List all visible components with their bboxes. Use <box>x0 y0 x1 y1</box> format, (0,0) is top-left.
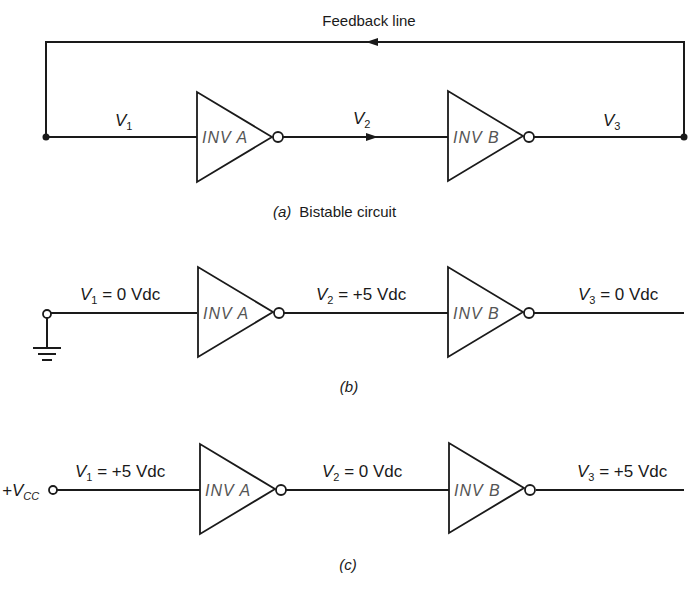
inverter-b-label: INV B <box>453 305 500 322</box>
feedback-arrow-icon <box>366 38 378 46</box>
vcc-source-label: +VCC <box>2 481 39 502</box>
inversion-bubble-icon <box>524 132 534 142</box>
caption-a: (a)Bistable circuit <box>273 203 397 220</box>
inverter-b: INV B <box>449 443 535 533</box>
panel-a-bistable-circuit: Feedback line INV A INV B V1 V2 V3 (a)Bi… <box>43 12 688 220</box>
input-terminal-icon <box>43 310 51 318</box>
inverter-a-label: INV A <box>205 482 251 499</box>
caption-c: (c) <box>339 556 357 573</box>
inverter-a: INV A <box>198 267 284 357</box>
inverter-b-label: INV B <box>453 129 500 146</box>
v1-value-label: V1 = 0 Vdc <box>80 285 161 306</box>
v3-value-label: V3 = +5 Vdc <box>577 462 668 483</box>
panel-b-low-input: INV A INV B V1 = 0 Vdc V2 = +5 Vdc V3 = … <box>33 267 684 395</box>
inverter-b: INV B <box>448 91 534 181</box>
v1-value-label: V1 = +5 Vdc <box>75 462 166 483</box>
caption-b: (b) <box>340 378 358 395</box>
panel-c-high-input: +VCC INV A INV B V1 = +5 Vdc V2 = 0 Vdc … <box>2 443 684 573</box>
inverter-b-label: INV B <box>454 482 501 499</box>
inverter-a-label: INV A <box>203 305 249 322</box>
inverter-b: INV B <box>448 267 534 357</box>
v2-value-label: V2 = +5 Vdc <box>316 285 407 306</box>
v2-label: V2 <box>353 109 370 130</box>
bistable-circuit-diagram: Feedback line INV A INV B V1 V2 V3 (a)Bi… <box>0 0 698 590</box>
junction-dot-right <box>681 134 688 141</box>
v2-value-label: V2 = 0 Vdc <box>322 462 403 483</box>
inversion-bubble-icon <box>273 132 283 142</box>
inverter-a: INV A <box>197 92 283 182</box>
junction-dot-left <box>43 134 50 141</box>
v1-label: V1 <box>115 111 132 132</box>
inverter-a-label: INV A <box>202 129 248 146</box>
signal-arrow-icon <box>366 133 378 141</box>
inversion-bubble-icon <box>276 485 286 495</box>
inversion-bubble-icon <box>524 308 534 318</box>
ground-icon <box>33 318 61 360</box>
v3-value-label: V3 = 0 Vdc <box>578 285 659 306</box>
v3-label: V3 <box>603 111 620 132</box>
inverter-a: INV A <box>200 444 286 534</box>
vcc-terminal-icon <box>49 486 57 494</box>
feedback-line-label: Feedback line <box>322 12 415 29</box>
inversion-bubble-icon <box>525 485 535 495</box>
inversion-bubble-icon <box>274 308 284 318</box>
